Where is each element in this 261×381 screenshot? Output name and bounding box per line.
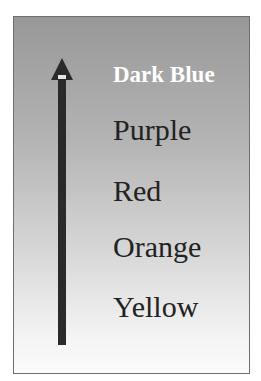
label-dark-blue: Dark Blue xyxy=(113,63,215,86)
label-orange: Orange xyxy=(113,232,201,262)
label-yellow: Yellow xyxy=(113,292,198,322)
label-red: Red xyxy=(113,176,161,206)
color-scale-panel: Dark Blue Purple Red Orange Yellow xyxy=(13,16,250,374)
label-purple: Purple xyxy=(113,115,191,145)
